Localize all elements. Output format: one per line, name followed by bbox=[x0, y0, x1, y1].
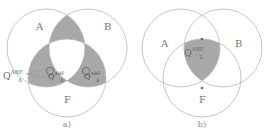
venn-panel-b: A B F QABFΣ b) bbox=[135, 0, 269, 130]
q-superscript: ABF bbox=[55, 71, 65, 76]
q-subscript: Δ bbox=[96, 78, 99, 83]
panel-b-caption: b) bbox=[135, 120, 269, 129]
q-subscript: Δ bbox=[18, 77, 22, 83]
vertex-bottom bbox=[201, 87, 204, 90]
annotation-q-delta-abf-outer: QABFΔ bbox=[3, 66, 27, 82]
annotation-q-delta-abf-left: QABFΔ bbox=[48, 66, 68, 82]
region-triple-intersection bbox=[135, 0, 269, 130]
q-subscript: Δ bbox=[60, 78, 63, 83]
q-base: Q bbox=[48, 72, 55, 81]
set-label-b: B bbox=[104, 21, 111, 32]
annotation-q-delta-abf-right: QABFΔ bbox=[84, 66, 104, 82]
region-A-inter-B bbox=[0, 0, 134, 130]
set-label-a: A bbox=[36, 21, 43, 32]
q-base: Q bbox=[184, 47, 192, 58]
q-superscript: ABF bbox=[192, 46, 204, 52]
q-subscript: Σ bbox=[199, 54, 203, 60]
q-base: Q bbox=[84, 72, 91, 81]
set-label-a: A bbox=[161, 38, 168, 49]
venn-diagram-b bbox=[135, 0, 269, 130]
set-label-b: B bbox=[235, 38, 242, 49]
q-base: Q bbox=[3, 70, 11, 81]
venn-figure-root: A B F QABFΔ QABFΔ QABFΔ a) bbox=[0, 0, 269, 130]
vertex-top bbox=[201, 38, 204, 41]
venn-diagram-a bbox=[0, 0, 134, 130]
set-label-f: F bbox=[64, 94, 71, 105]
annotation-q-sigma-abf-center: QABFΣ bbox=[184, 43, 208, 59]
set-label-f: F bbox=[199, 94, 206, 105]
venn-panel-a: A B F QABFΔ QABFΔ QABFΔ a) bbox=[0, 0, 134, 130]
panel-a-caption: a) bbox=[0, 120, 134, 129]
q-superscript: ABF bbox=[91, 71, 101, 76]
q-superscript: ABF bbox=[11, 69, 23, 75]
